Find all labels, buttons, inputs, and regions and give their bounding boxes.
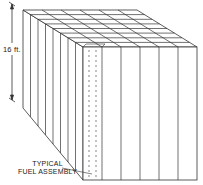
height-label: 16 ft.	[3, 44, 21, 55]
fuel-core-diagram	[0, 0, 203, 185]
callout-line-1: TYPICAL	[18, 160, 77, 168]
fuel-assembly-callout: TYPICAL FUEL ASSEMBLY	[18, 160, 77, 176]
callout-line-2: FUEL ASSEMBLY	[18, 168, 77, 176]
